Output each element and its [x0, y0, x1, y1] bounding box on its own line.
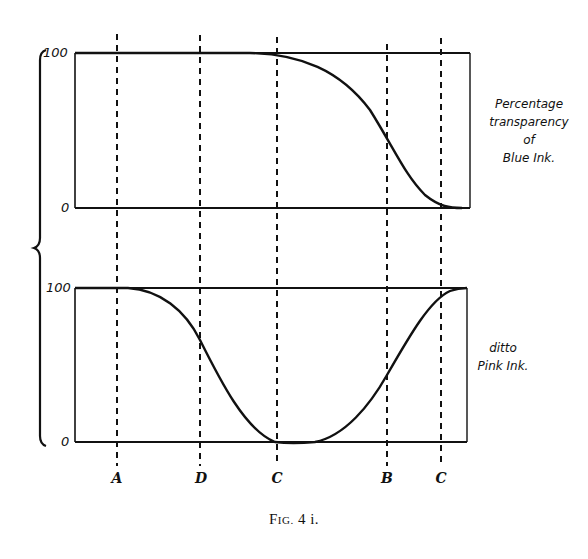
top-panel-frame — [75, 53, 470, 208]
marker-label-c1: C — [271, 470, 282, 486]
caption-number: 4 i. — [294, 511, 319, 527]
figure-canvas — [0, 0, 588, 559]
side-label-line: Pink Ink. — [468, 357, 538, 375]
figure-caption: FIG. 4 i. — [0, 511, 588, 528]
marker-label-c2: C — [435, 470, 446, 486]
caption-smallcaps: IG. — [278, 514, 294, 526]
pink-ink-curve — [75, 288, 467, 443]
top-panel-side-label: Percentage transparency of Blue Ink. — [470, 95, 588, 167]
grouping-brace — [34, 50, 46, 446]
marker-lines — [117, 34, 441, 466]
side-label-line: ditto — [468, 339, 538, 357]
caption-initial: F — [269, 511, 278, 527]
marker-label-d: D — [195, 470, 207, 486]
side-label-line: Percentage — [470, 95, 588, 113]
bottom-y-max-label: 100 — [46, 280, 71, 295]
side-label-line: Blue Ink. — [470, 149, 588, 167]
marker-label-b: B — [381, 470, 393, 486]
top-y-min-label: 0 — [61, 200, 69, 215]
blue-ink-curve — [75, 53, 462, 208]
side-label-line: of — [470, 131, 588, 149]
marker-label-a: A — [112, 470, 123, 486]
bottom-panel-frame — [75, 288, 467, 442]
side-label-line: transparency — [470, 113, 588, 131]
bottom-y-min-label: 0 — [61, 434, 69, 449]
bottom-panel-side-label: ditto Pink Ink. — [468, 339, 538, 375]
top-y-max-label: 100 — [43, 45, 68, 60]
